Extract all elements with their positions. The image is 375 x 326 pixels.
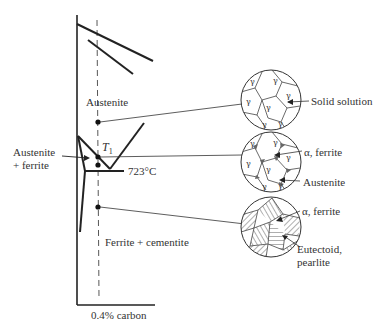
- svg-text:γ: γ: [250, 77, 255, 86]
- eutectoid-phase-lines: [78, 123, 144, 232]
- t1-symbol: T: [102, 140, 109, 154]
- microstructure-solid-solution: γγ γγ γγγ: [241, 70, 309, 132]
- callout-pearlite: pearlite: [297, 256, 330, 268]
- composition-dashed-line: [97, 20, 99, 300]
- leader-lines: [100, 104, 245, 224]
- point-t1: [95, 154, 100, 159]
- t1-subscript: 1: [109, 147, 113, 156]
- upper-phase-lines: [77, 24, 153, 74]
- callout-alpha-ferrite-2: α, ferrite: [302, 205, 340, 217]
- svg-text:γ: γ: [246, 159, 251, 168]
- point-austenite: [95, 119, 100, 124]
- point-ferrite-cementite: [95, 204, 100, 209]
- svg-text:γ: γ: [250, 139, 255, 148]
- svg-text:γ: γ: [278, 119, 283, 128]
- svg-text:γ: γ: [273, 76, 278, 85]
- svg-text:γ: γ: [266, 103, 271, 112]
- austenite-ferrite-arrow: [62, 155, 90, 161]
- callout-solid-solution: Solid solution: [311, 95, 372, 107]
- microstructure-austenite-ferrite: γγ γγ γγγ: [241, 132, 302, 194]
- temperature-marker-t1: T1: [102, 141, 113, 158]
- svg-text:γ: γ: [266, 165, 271, 174]
- svg-text:γ: γ: [278, 181, 283, 190]
- region-label-austenite-ferrite-line2: + ferrite: [13, 159, 49, 171]
- svg-text:γ: γ: [262, 120, 267, 129]
- point-eutectoid: [95, 162, 100, 167]
- region-label-austenite: Austenite: [86, 96, 128, 108]
- region-label-austenite-ferrite-line1: Austenite: [13, 146, 55, 158]
- svg-text:γ: γ: [246, 97, 251, 106]
- microstructure-pearlite: [241, 197, 301, 258]
- eutectoid-temperature-label: 723°C: [128, 165, 156, 177]
- region-label-ferrite-cementite: Ferrite + cementite: [105, 236, 189, 248]
- callout-alpha-ferrite-1: α, ferrite: [304, 146, 342, 158]
- svg-text:γ: γ: [273, 138, 278, 147]
- svg-text:γ: γ: [262, 182, 267, 191]
- phase-diagram: γγ γγ γγγ γγ γγ: [0, 0, 375, 326]
- callout-eutectoid: Eutectoid,: [297, 243, 342, 255]
- svg-text:γ: γ: [286, 91, 291, 100]
- composition-label: 0.4% carbon: [91, 309, 147, 321]
- callout-austenite: Austenite: [303, 176, 345, 188]
- svg-text:γ: γ: [286, 153, 291, 162]
